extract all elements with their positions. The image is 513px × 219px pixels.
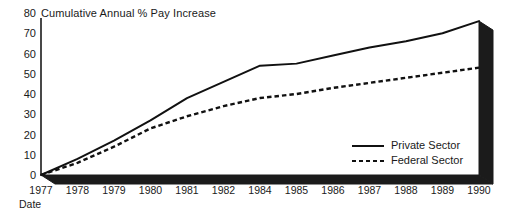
chart-legend: Private Sector Federal Sector bbox=[352, 138, 463, 168]
legend-label-federal-sector: Federal Sector bbox=[391, 154, 463, 167]
axis-right-wall bbox=[479, 21, 493, 184]
axis-floor-slab bbox=[41, 175, 493, 184]
dashed-line-icon bbox=[352, 156, 384, 166]
legend-item-federal-sector: Federal Sector bbox=[352, 153, 463, 168]
legend-item-private-sector: Private Sector bbox=[352, 138, 463, 153]
chart-container: Cumulative Annual % Pay Increase 0102030… bbox=[0, 0, 513, 219]
solid-line-icon bbox=[352, 141, 384, 151]
plot-area bbox=[0, 0, 513, 219]
legend-label-private-sector: Private Sector bbox=[391, 139, 460, 152]
